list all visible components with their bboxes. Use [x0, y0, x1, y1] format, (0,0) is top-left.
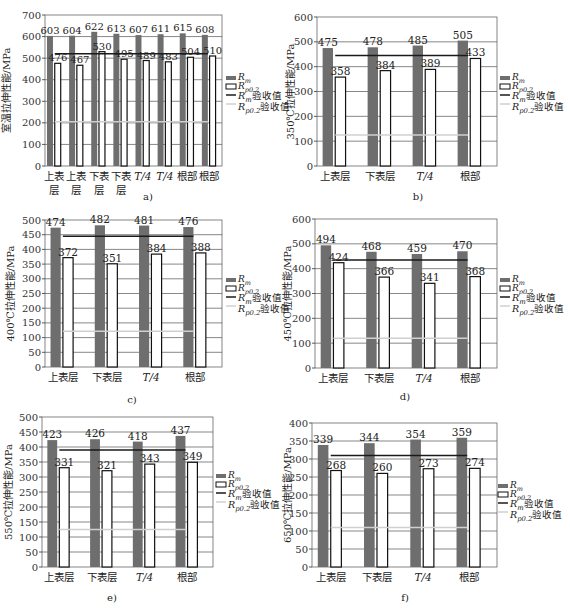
y-tick-label: 500: [22, 53, 41, 64]
value-label-rp02: 368: [465, 265, 485, 277]
bar-rp02: [99, 52, 105, 166]
bar-rp02: [143, 61, 149, 166]
legend-rp-swatch: [498, 492, 508, 497]
chart-e: 050100150200250300350400450500550℃拉伸性能/M…: [2, 412, 280, 604]
bar-rp02: [380, 71, 390, 166]
y-tick-label: 0: [307, 161, 313, 172]
bar-rm: [458, 41, 468, 166]
value-label-rm: 359: [452, 426, 472, 438]
value-label-rm: 622: [85, 21, 104, 32]
legend-rm-swatch: [226, 278, 236, 282]
y-tick-label: 450: [19, 427, 38, 438]
y-tick-label: 250: [22, 288, 41, 299]
value-label-rp02: 351: [102, 252, 122, 264]
y-tick-label: 100: [22, 139, 41, 150]
y-tick-label: 400: [292, 263, 311, 274]
y-tick-label: 350: [289, 436, 308, 447]
x-category-label: 下表: [89, 170, 110, 182]
legend-rp-swatch: [500, 286, 510, 291]
bar-rp02: [77, 65, 83, 166]
x-category-label: 上表层: [318, 372, 348, 384]
bar-rp02: [333, 263, 343, 368]
value-label-rm: 603: [40, 25, 59, 36]
y-tick-label: 600: [294, 12, 313, 23]
value-label-rm: 344: [359, 431, 379, 443]
bar-rp02: [59, 468, 69, 567]
value-label-rm: 615: [173, 22, 192, 33]
chart-b: 0100200300400500600350℃拉伸性能/MPa475358478…: [284, 12, 564, 203]
chart-d: 0100200300400500600450℃拉伸性能/MPa494424468…: [281, 214, 564, 403]
legend: RmRp0.2Rm验收值Rp0.2验收值: [226, 274, 290, 317]
bar-rm: [91, 32, 97, 166]
y-tick-label: 250: [19, 487, 38, 498]
y-tick-label: 150: [19, 517, 38, 528]
x-category-label: T/4: [143, 371, 160, 383]
bar-rp02: [151, 254, 161, 367]
value-label-rp02: 268: [326, 459, 346, 471]
x-category-label: 上表层: [48, 371, 78, 383]
y-tick-label: 450: [22, 229, 41, 240]
x-category-label: 下表层: [365, 170, 395, 182]
y-tick-label: 300: [292, 288, 311, 299]
bar-rp02: [425, 69, 435, 166]
x-category-label: 上表层: [320, 170, 350, 182]
x-category-label: 下表: [111, 170, 132, 182]
y-tick-label: 500: [19, 412, 38, 423]
legend-rm-swatch: [500, 76, 510, 80]
subfigure-caption: a): [143, 191, 153, 202]
y-tick-label: 400: [289, 418, 308, 429]
y-tick-label: 350: [22, 259, 41, 270]
value-label-rp02: 260: [372, 461, 392, 473]
y-tick-label: 300: [294, 86, 313, 97]
y-tick-label: 300: [22, 273, 41, 284]
x-category-label: 上表: [44, 170, 65, 182]
bar-rp02: [145, 464, 155, 567]
legend-rp-swatch: [500, 84, 510, 89]
y-tick-label: 100: [22, 332, 41, 343]
x-category-label: 下表层: [87, 571, 117, 583]
bar-rp02: [424, 283, 434, 368]
value-label-rm: 459: [407, 242, 427, 254]
value-label-rm: 339: [313, 433, 333, 445]
legend: RmRp0.2Rm验收值Rp0.2验收值: [500, 274, 564, 317]
x-category-label: 根部: [459, 571, 479, 583]
bar-rp02: [107, 264, 117, 367]
value-label-rp02: 433: [465, 46, 485, 58]
bar-rp02: [187, 57, 193, 166]
value-label-rp02: 321: [97, 459, 117, 471]
value-label-rp02: 372: [58, 246, 78, 258]
legend: RmRp0.2Rm验收值Rp0.2验收值: [226, 72, 290, 115]
y-tick-label: 0: [35, 362, 41, 373]
legend-rm-swatch: [500, 278, 510, 282]
x-category-label: T/4: [416, 372, 433, 384]
svg-text:Rp0.2验收值: Rp0.2验收值: [511, 101, 564, 115]
x-category-label: T/4: [136, 571, 153, 583]
bar-rp02: [423, 469, 434, 567]
value-label-rm: 613: [107, 23, 126, 34]
value-label-rm: 478: [363, 35, 383, 47]
value-label-rm: 482: [90, 213, 110, 225]
y-tick-label: 0: [305, 363, 311, 374]
value-label-rm: 475: [318, 36, 338, 48]
bar-rp02: [470, 58, 480, 166]
figure-canvas: 0100200300400500600700室温拉伸性能/MPa60347660…: [0, 0, 570, 611]
bar-rp02: [379, 277, 389, 368]
bar-rp02: [165, 62, 171, 166]
value-label-rp02: 358: [330, 65, 350, 77]
value-label-rp02: 530: [92, 41, 111, 52]
subfigure-caption: b): [413, 191, 423, 202]
legend-rp-swatch: [216, 482, 226, 487]
value-label-rp02: 467: [70, 54, 89, 65]
y-tick-label: 0: [35, 161, 41, 172]
value-label-rp02: 331: [54, 456, 74, 468]
value-label-rm: 426: [85, 427, 105, 439]
value-label-rm: 481: [134, 214, 154, 226]
value-label-rm: 476: [178, 215, 198, 227]
value-label-rp02: 389: [420, 57, 440, 69]
bar-rp02: [210, 56, 216, 166]
legend-rm-swatch: [226, 76, 236, 80]
x-category-label: 根部: [460, 170, 480, 182]
subfigure-caption: d): [400, 391, 410, 402]
value-label-rp02: 343: [140, 452, 160, 464]
svg-text:Rp0.2验收值: Rp0.2验收值: [509, 509, 562, 523]
